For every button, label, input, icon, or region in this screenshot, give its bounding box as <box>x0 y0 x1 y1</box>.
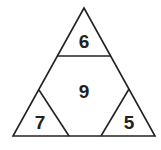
top-region-label: 6 <box>79 31 90 52</box>
center-region-label: 9 <box>79 81 90 102</box>
bottom-left-region-label: 7 <box>35 112 46 133</box>
triangle-diagram: 6 9 7 5 <box>0 0 161 150</box>
bottom-right-region-label: 5 <box>124 112 135 133</box>
